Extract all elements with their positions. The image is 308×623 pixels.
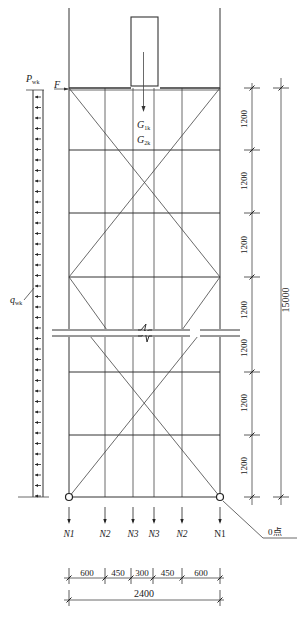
mid-brace-1 [69, 277, 107, 330]
svg-text:1200: 1200 [239, 301, 249, 320]
svg-text:1200: 1200 [239, 339, 249, 358]
scaffold-diagram: G1k G2k F Pwk qwk 1200120012001200120012… [0, 0, 308, 623]
svg-text:N2: N2 [98, 529, 110, 539]
svg-text:600: 600 [194, 568, 208, 578]
svg-text:1200: 1200 [239, 394, 249, 413]
dim-labels: 1200120012001200120012001200 [239, 110, 249, 476]
svg-text:N1: N1 [214, 529, 226, 539]
load-arrow-head [142, 106, 146, 112]
hdim-total-label: 2400 [134, 588, 154, 599]
svg-text:N3: N3 [126, 529, 138, 539]
svg-text:450: 450 [111, 568, 125, 578]
dim-total-label: 15000 [280, 288, 291, 313]
g1k-label: G1k [137, 119, 150, 131]
lower-brace-2 [69, 336, 198, 497]
svg-text:450: 450 [161, 568, 175, 578]
lower-brace-1 [90, 336, 220, 497]
support-right-icon [217, 494, 224, 501]
svg-text:300: 300 [135, 568, 149, 578]
load-block [131, 17, 158, 86]
g2k-label: G2k [137, 134, 150, 146]
svg-text:1200: 1200 [239, 172, 249, 191]
svg-text:1200: 1200 [239, 110, 249, 129]
reaction-arrows: N1N2N3N3N2N1 [62, 507, 226, 539]
break-gap [136, 331, 154, 335]
support-left-icon [66, 494, 73, 501]
svg-text:N1: N1 [62, 529, 74, 539]
svg-text:N2: N2 [175, 529, 187, 539]
svg-text:1200: 1200 [239, 236, 249, 255]
pwk-label: Pwk [25, 73, 39, 85]
wind-arrows [35, 96, 41, 498]
origin-label: 0点 [268, 527, 282, 537]
svg-text:N3: N3 [147, 529, 159, 539]
qwk-label: qwk [10, 294, 22, 306]
svg-text:1200: 1200 [239, 457, 249, 476]
svg-text:600: 600 [80, 568, 94, 578]
force-f-label: F [53, 79, 61, 90]
origin-leader [223, 501, 263, 538]
force-f-arrowhead [64, 88, 69, 91]
mid-brace-2 [182, 277, 220, 330]
